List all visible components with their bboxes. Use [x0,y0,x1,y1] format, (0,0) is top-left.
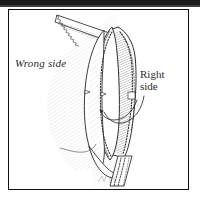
label-right-side: Right side [140,69,164,92]
label-right-side-line-2: side [140,81,164,93]
bottom-scan-smudge [96,176,118,183]
label-right-side-line-1: Right [140,69,164,81]
label-wrong-side: Wrong side [15,58,66,70]
sewing-illustration-artwork [0,0,200,199]
figure-page: Wrong side Right side [0,0,200,199]
